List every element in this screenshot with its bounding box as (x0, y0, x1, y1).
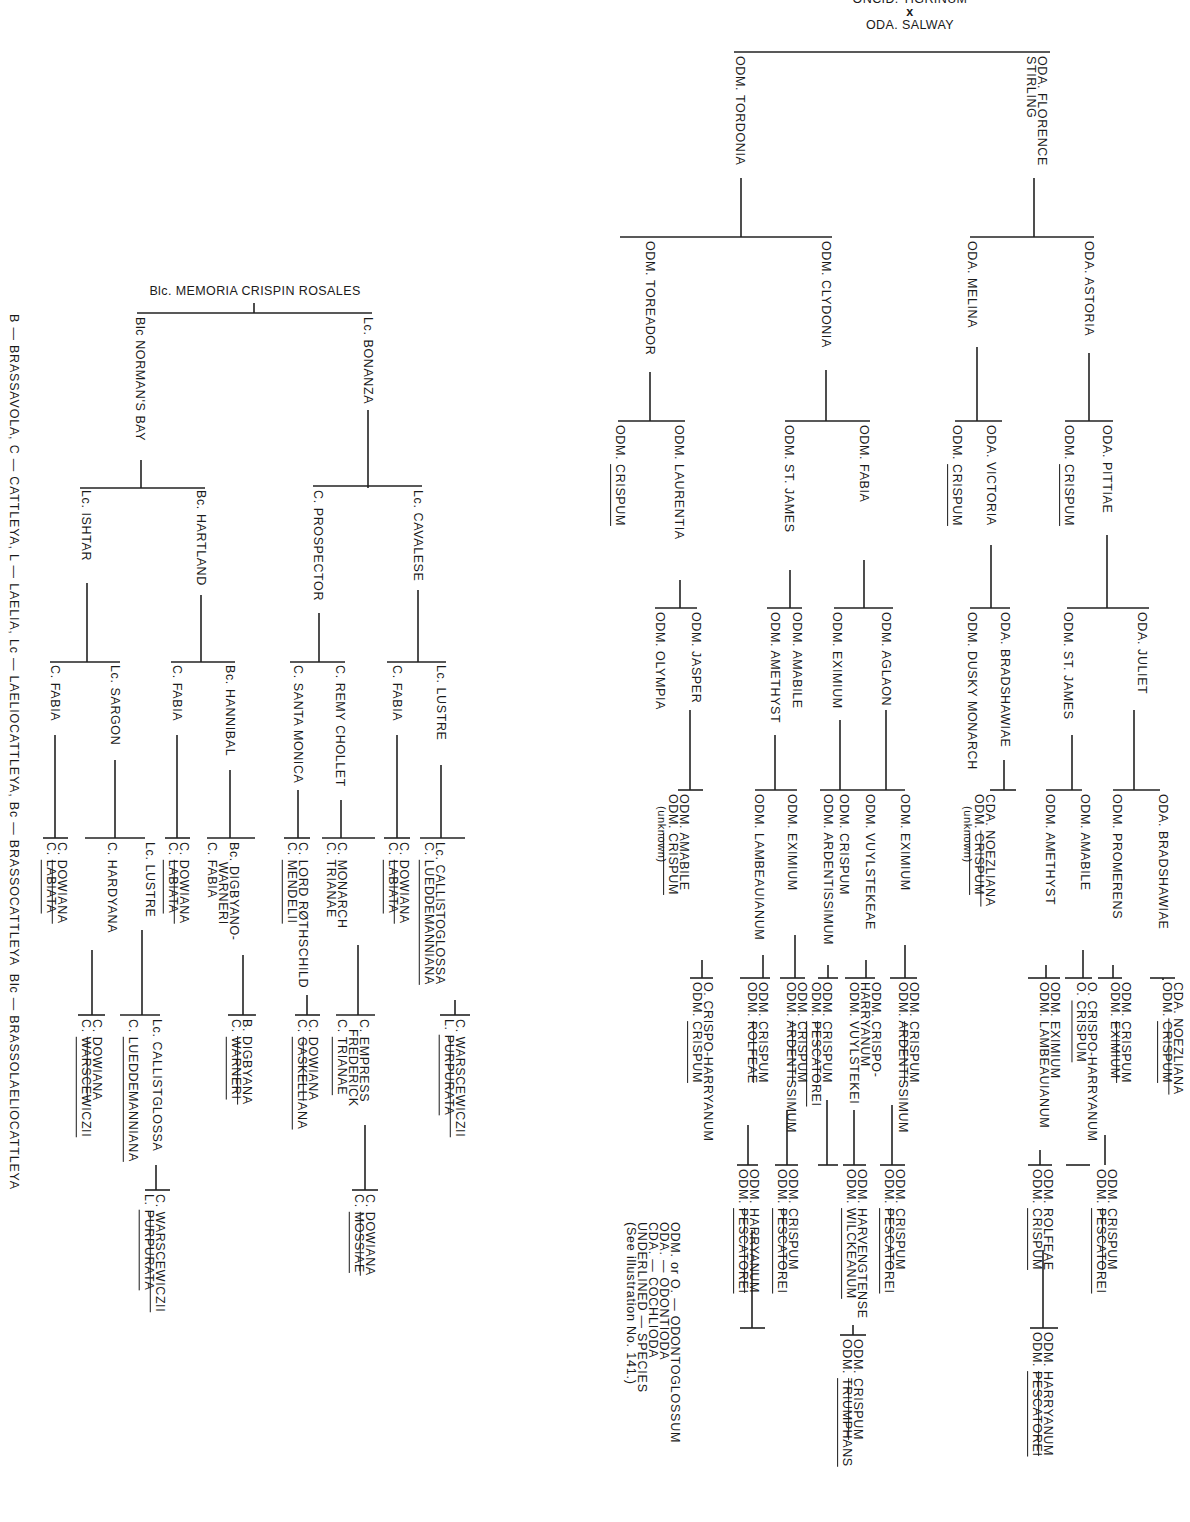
node-odm-amabile: ODM. AMABILE (1079, 794, 1090, 891)
node-ardentissimum-parents: ODM. CRISPUMODM. PESCATOREI (776, 1169, 798, 1294)
node-lc-bonanza: Lc. BONANZA (362, 317, 373, 404)
node-vuylstekei-parents: ODM. HARVENGTENSEODM. WILCKEANUM (845, 1169, 867, 1319)
node-ardentissimum-parents: ODM. CRISPUMODM. PESCATOREI (810, 982, 832, 1107)
node-odm-eximium: ODM. EXIMIUM (831, 612, 842, 709)
node-eximium-parents: ODM. CRISPUMODM. PESCATOREI (1095, 1169, 1117, 1294)
node-blc-normans-bay: Blc NORMAN'S BAY (134, 317, 145, 441)
node-lustre-parents: Lc. CALLISTOGLOSSAC. LUEDDEMANNIANA (423, 842, 445, 985)
node-fabia-parents: C. DOWIANAC. LABIATA (167, 842, 189, 924)
node-odm-st-james: ODM. ST. JAMES (1062, 612, 1073, 720)
node-oda-astoria: ODA. ASTORIA (1083, 241, 1094, 336)
node-hardyana-parents: C. DOWIANAC. WARSCEWICZII (80, 1019, 102, 1137)
root-cross-title: ONCID. TIGRINUM x ODA. SALWAY (820, 0, 1000, 32)
node-hannibal-parents: Bc. DIGBYANO-WARNERIC. FABIA (206, 842, 239, 941)
node-callistglossa-parents: C. WARSCEWICZIIL. PURPURATA (143, 1194, 165, 1312)
right-legend: ODM. or O. — ODONTOGLOSSUMODA. — ODONTIO… (625, 1222, 680, 1443)
node-c-fabia: C. FABIA (49, 665, 60, 721)
node-c-santa-monica: C. SANTA MONICA (292, 665, 303, 784)
node-c-remy-chollet: C. REMY CHOLLET (334, 665, 345, 787)
left-tree-title: Blc. MEMORIA CRISPIN ROSALES (130, 284, 380, 298)
node-bc-hannibal: Bc. HANNIBAL (224, 665, 235, 756)
node-odm-crispum-species: ODM. CRISPUM (951, 425, 962, 526)
node-cda-noezliana-odm-crispum: CDA. NOEZLIANAODM. CRISPUM (1161, 982, 1183, 1095)
node-remy-chollet-parents: C. MONARCHC. TRIANAE (325, 842, 347, 929)
node-lc-lustre: Lc. LUSTRE (435, 665, 446, 740)
node-vuylstekeae-parents: ODM. CRISPO-HARRYANUMODM. VUYLSTEKEI (848, 982, 881, 1104)
node-odm-lambeauianum: ODM. LAMBEAUIANUM (753, 794, 764, 940)
node-odm-fabia: ODM. FABIA (858, 425, 869, 503)
node-odm-clydonia: ODM. CLYDONIA (820, 241, 831, 348)
node-odm-dusky-monarch: ODM. DUSKY MONARCH (966, 612, 977, 770)
node-lustre-parents: Lc. CALLISTGLOSSAC. LUEDDEMANNIANA (121, 1019, 169, 1162)
node-odm-crispum-species: ODM. CRISPUM (1063, 425, 1074, 526)
node-eximium-parents: ODM. CRISPUMODM. ARDENTISSIMUM (897, 982, 919, 1133)
node-lc-ishtar: Lc. ISHTAR (80, 490, 91, 561)
node-odm-amethyst: ODM. AMETHYST (1044, 794, 1055, 905)
node-amethyst-parents: ODM. EXIMIUMODM. LAMBEAUIANUM (1038, 982, 1060, 1128)
node-oda-pittiae: ODA. PITTIAE (1101, 425, 1112, 513)
node-monarch-parents: C. EMPRESSFREDERICKC. TRIANAE (336, 1019, 369, 1107)
node-odm-toreador: ODM. TOREADOR (644, 241, 655, 355)
node-lord-rothschild-parents: C. DOWIANAC. GASKELLIANA (296, 1019, 318, 1130)
node-santa-monica-parents: C. LORD RØTHSCHILDC. MENDELII (286, 842, 308, 988)
node-odm-jasper: ODM. JASPER (690, 612, 701, 703)
node-amabile-parents: O. CRISPO-HARRYANUMODM. CRISPUM (691, 982, 713, 1142)
node-odm-aglaon: ODM. AGLAON (880, 612, 891, 706)
node-odm-crispum-species: ODM. CRISPUM (614, 425, 625, 526)
node-c-fabia: C. FABIA (171, 665, 182, 721)
left-legend: B — BRASSAVOLA, C — CATTLEYA, L — LAELIA… (8, 314, 19, 1190)
node-oda-bradshawiae: ODA. BRADSHAWIAE (1157, 794, 1168, 930)
node-odm-st-james: ODM. ST. JAMES (783, 425, 794, 533)
node-rolfeae-parents: ODM. HARRYANUMODM. PESCATOREI (737, 1169, 759, 1294)
root-parent-2: ODA. SALWAY (820, 18, 1000, 32)
node-oda-juliet: ODA. JULIET (1136, 612, 1147, 694)
node-odm-eximium: ODM. EXIMIUM (786, 794, 797, 891)
node-odm-olympia: ODM. OLYMPIA (654, 612, 665, 710)
node-fabia-parents: C. DOWIANAC. LABIATA (45, 842, 67, 924)
node-digbyano-warneri-parents: B. DIGBYANAC. WARNERI (230, 1019, 252, 1105)
node-promerens-parents: ODM. CRISPUMODM. EXIMIUM (1109, 982, 1131, 1083)
node-lc-cavalese: Lc. CAVALESE (412, 490, 423, 582)
node-ardentissimum-parents: ODM. CRISPUMODM. PESCATOREI (883, 1169, 905, 1294)
node-lambeauianum-parents: ODM. CRISPUMODM. ROLFEAE (746, 982, 768, 1084)
node-eximium-parents: ODM. CRISPUMODM. ARDENTISSIMUM (785, 982, 807, 1133)
node-bc-hartland: Bc. HARTLAND (195, 490, 206, 586)
cross-symbol: x (820, 6, 1000, 18)
node-odm-ardentissimum: ODM. ARDENTISSIMUM (822, 794, 833, 945)
node-odm-eximium: ODM. EXIMIUM (899, 794, 910, 891)
node-odm-tordonia: ODM. TORDONIA (734, 56, 745, 165)
node-amabile-parents: O. CRISPO-HARRYANUMO. CRISPUM (1075, 982, 1097, 1142)
node-oda-bradshawiae: ODA. BRADSHAWIAE (999, 612, 1010, 748)
node-c-fabia: C. FABIA (391, 665, 402, 721)
node-odm-amabile: ODM. AMABILE (791, 612, 802, 709)
node-odm-promerens: ODM. PROMERENS (1111, 794, 1122, 919)
node-lambeauianum-parents: ODM. ROLFEAEODM. CRISPUM (1031, 1169, 1053, 1271)
node-harvengtense-parents: ODM. CRISPUMODM. TRIUMPHANS (841, 1339, 863, 1467)
node-lc-sargon: Lc. SARGON (109, 665, 120, 745)
node-oda-melina: ODA. MELINA (966, 241, 977, 328)
node-c-prospector: C. PROSPECTOR (312, 490, 323, 601)
node-odm-vuylstekeae: ODM. VUYLSTEKEAE (864, 794, 875, 930)
node-fabia-parents: C. DOWIANAC. LABIATA (387, 842, 409, 924)
node-callistoglossa-parents: C. WARSCEWICZIIL. PURPURATA (443, 1019, 465, 1137)
node-empress-frederick-parents: C. DOWIANAC. MOSSIAE (353, 1194, 375, 1276)
node-odm-laurentia: ODM. LAURENTIA (673, 425, 684, 540)
node-oda-florence-stirling: ODA. FLORENCE STIRLING (1025, 56, 1047, 166)
node-bradshawiae-parents: CDA. NOEZLIANAODM. CRISPUM(unknown) (962, 794, 995, 907)
node-sargon-parents: Lc. LUSTREC. HARDYANA (93, 842, 169, 933)
node-odm-crispum: ODM. CRISPUM (838, 794, 849, 895)
node-jasper-parents: ODM. AMABILEODM. CRISPUM(unknown) (656, 794, 689, 895)
node-odm-amethyst: ODM. AMETHYST (769, 612, 780, 723)
tree-connector-lines (0, 0, 1190, 1522)
node-rolfeae-parents: ODM. HARRYANUMODM. PESCATOREI (1031, 1332, 1053, 1457)
node-oda-victoria: ODA. VICTORIA (985, 425, 996, 526)
